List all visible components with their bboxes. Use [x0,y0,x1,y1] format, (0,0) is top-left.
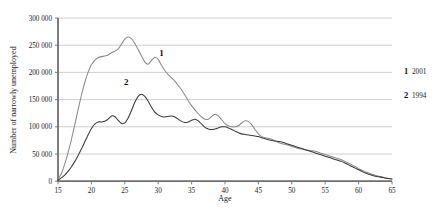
legend-key-1: 1 [404,66,408,76]
y-tick-label: 300 000 [29,15,53,23]
y-tick-label: 0 [48,178,52,186]
curve-tag-2: 2 [124,77,129,87]
chart-container: 050 000100 000150 000200 000250 000300 0… [0,0,436,218]
x-tick-label: 30 [155,187,163,195]
legend-key-2: 2 [404,90,408,100]
unemployment-line-chart: 050 000100 000150 000200 000250 000300 0… [0,0,436,218]
x-tick-label: 15 [54,187,62,195]
curve-tag-1: 1 [159,48,164,58]
y-tick-label: 50 000 [32,151,52,159]
x-tick-label: 65 [388,187,396,195]
x-tick-label: 60 [355,187,363,195]
legend-label-1994: 1994 [412,92,427,100]
y-tick-label: 100 000 [29,123,53,131]
y-tick-label: 150 000 [29,96,53,104]
y-tick-label: 250 000 [29,42,53,50]
x-tick-label: 50 [288,187,296,195]
x-tick-label: 20 [88,187,96,195]
x-tick-label: 25 [121,187,129,195]
x-axis-title: Age [218,194,232,203]
x-tick-label: 55 [322,187,330,195]
chart-background [0,0,436,218]
y-tick-label: 200 000 [29,69,53,77]
x-tick-label: 35 [188,187,196,195]
legend-label-2001: 2001 [412,68,427,76]
y-axis-title: Number of narrowly unemployed [9,46,18,153]
x-tick-label: 45 [255,187,263,195]
